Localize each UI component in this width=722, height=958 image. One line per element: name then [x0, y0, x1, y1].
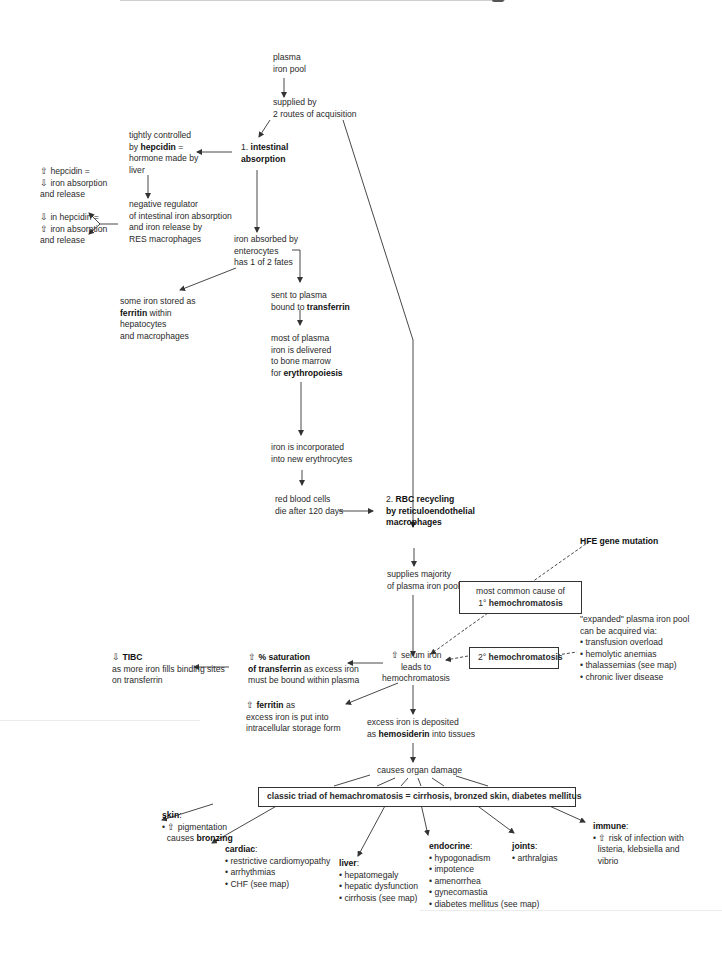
connector-layer	[0, 0, 722, 958]
node-text: leads to	[381, 662, 451, 674]
node-keyword: intestinal	[251, 142, 289, 152]
node-keyword: absorption	[241, 154, 285, 164]
node-keyword: RBC recycling	[396, 494, 455, 504]
node-joints: joints: arthralgias	[512, 841, 558, 864]
node-hemosiderin: excess iron is deposited as hemosiderin …	[367, 717, 475, 740]
box-classic-triad: classic triad of hemachromatosis = cirrh…	[258, 787, 576, 807]
node-text: most common cause of	[468, 586, 573, 598]
node-text: hormone made by	[129, 153, 198, 165]
down-arrow-icon	[40, 212, 48, 222]
node-text: causes organ damage	[377, 765, 462, 775]
up-arrow-icon	[167, 822, 175, 832]
scan-artifact	[0, 720, 200, 721]
up-arrow-icon	[598, 833, 606, 843]
node-text: has 1 of 2 fates	[234, 257, 298, 269]
node-text: intracellular storage form	[246, 723, 341, 735]
node-keyword: macrophages	[386, 517, 442, 527]
node-ferritin-storage: some iron stored as ferritin within hepa…	[120, 296, 195, 342]
node-text: liver	[129, 165, 198, 177]
node-supplied-by: supplied by 2 routes of acquisition	[273, 97, 357, 120]
node-text: and macrophages	[120, 331, 195, 343]
node-text: listeria, klebsiella and	[598, 844, 680, 854]
expanded-causes-list: transfusion overload hemolytic anemias t…	[580, 637, 689, 683]
node-text: 2 routes of acquisition	[273, 109, 357, 121]
node-text: on transferrin	[112, 675, 225, 687]
up-arrow-icon	[40, 166, 48, 176]
node-keyword: erythropoiesis	[283, 368, 342, 378]
list-item: gynecomastia	[429, 887, 540, 899]
node-keyword: ferritin	[256, 700, 283, 710]
organ-title: endocrine	[429, 841, 470, 851]
node-text: 1.	[241, 142, 251, 152]
up-arrow-icon	[391, 650, 399, 660]
node-text: "expanded" plasma iron pool	[580, 614, 689, 626]
node-text: excess iron is deposited	[367, 717, 475, 729]
node-skin: skin: • pigmentation causes bronzing	[162, 810, 233, 845]
node-text: hepcidin =	[50, 166, 89, 176]
node-ferritin-up: ferritin as excess iron is put into intr…	[246, 700, 341, 735]
node-organ-damage: causes organ damage	[377, 765, 462, 777]
node-text: as	[367, 729, 378, 739]
down-arrow-icon	[112, 652, 120, 662]
up-arrow-icon	[40, 224, 48, 234]
node-negative-regulator: negative regulator of intestinal iron ab…	[129, 199, 232, 245]
node-keyword: by reticuloendothelial	[386, 506, 475, 516]
node-text: serum iron	[401, 650, 442, 660]
node-text: supplies majority	[387, 569, 460, 581]
list-item: thalassemias (see map)	[580, 660, 689, 672]
list-item: chronic liver disease	[580, 672, 689, 684]
list-item: arthralgias	[512, 853, 558, 865]
node-text: as more iron fills binding sites	[112, 664, 225, 676]
node-intestinal-absorption: 1. intestinal absorption	[241, 142, 288, 165]
node-text: and release	[40, 189, 107, 201]
node-text: plasma	[273, 52, 306, 64]
node-expanded-pool: "expanded" plasma iron pool can be acqui…	[580, 614, 689, 683]
node-keyword: bronzing	[196, 833, 232, 843]
node-keyword: % saturation	[258, 652, 310, 662]
organ-title: liver	[339, 858, 357, 868]
organ-title: cardiac	[225, 844, 255, 854]
node-rbc-recycling: 2. RBC recycling by reticuloendothelial …	[386, 494, 475, 529]
node-up-hepcidin: hepcidin = iron absorption and release	[40, 166, 107, 201]
node-text: RES macrophages	[129, 234, 232, 246]
node-text: risk of infection with	[609, 833, 684, 843]
node-text: hepatocytes	[120, 319, 195, 331]
node-text: can be acquired via:	[580, 626, 689, 638]
node-keyword: hemochromatosis	[489, 598, 563, 608]
list-item: CHF (see map)	[225, 879, 330, 891]
node-text: hemochromatosis	[381, 673, 451, 685]
down-arrow-icon	[40, 178, 48, 188]
node-text: into new erythrocytes	[271, 454, 352, 466]
cardiac-list: restrictive cardiomyopathy arrhythmias C…	[225, 856, 330, 891]
node-text: as	[284, 700, 295, 710]
top-border	[120, 0, 505, 1]
node-text: for	[271, 368, 283, 378]
node-text: red blood cells	[275, 494, 343, 506]
node-text: 2°	[478, 652, 489, 662]
node-text: and iron release by	[129, 222, 232, 234]
node-text: iron is incorporated	[271, 442, 352, 454]
node-saturation: % saturation of transferrin as excess ir…	[248, 652, 359, 687]
node-text: iron absorption	[50, 178, 107, 188]
liver-list: hepatomegaly hepatic dysfunction cirrhos…	[339, 870, 418, 905]
node-text: most of plasma	[271, 333, 343, 345]
organ-title: immune	[593, 821, 626, 831]
node-text: enterocytes	[234, 246, 298, 258]
node-text: must be bound within plasma	[248, 675, 359, 687]
node-liver: liver: hepatomegaly hepatic dysfunction …	[339, 858, 418, 904]
node-text: tightly controlled	[129, 130, 198, 142]
node-cardiac: cardiac: restrictive cardiomyopathy arrh…	[225, 844, 330, 890]
list-item: hepatomegaly	[339, 870, 418, 882]
node-text: and release	[40, 235, 107, 247]
node-keyword: transferrin	[307, 302, 350, 312]
list-item: diabetes mellitus (see map)	[429, 899, 540, 911]
list-item: amenorrhea	[429, 876, 540, 888]
node-down-hepcidin: in hepcidin = iron absorption and releas…	[40, 212, 107, 247]
node-immune: immune: • risk of infection with listeri…	[593, 821, 684, 867]
node-text: of plasma iron pool	[387, 581, 460, 593]
node-keyword: hemochromatosis	[489, 652, 563, 662]
list-item: hepatic dysfunction	[339, 881, 418, 893]
node-text: vibrio	[598, 856, 619, 866]
node-hepcidin-control: tightly controlled by hepcidin = hormone…	[129, 130, 198, 176]
node-plasma-iron-pool: plasma iron pool	[273, 52, 306, 75]
